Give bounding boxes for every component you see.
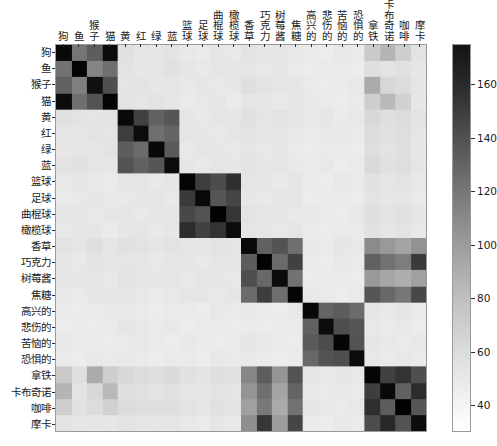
y-tick-label-1: 鱼 <box>41 60 51 77</box>
y-tick-label-7: 蓝 <box>41 157 51 174</box>
y-tick-mark-23 <box>52 424 55 425</box>
y-tick-label-20: 拿铁 <box>31 367 51 384</box>
y-tick-mark-10 <box>52 214 55 215</box>
y-tick-label-21: 卡布奇诺 <box>11 384 51 401</box>
y-tick-label-11: 橄榄球 <box>21 222 51 239</box>
y-tick-mark-7 <box>52 165 55 166</box>
y-tick-mark-1 <box>52 68 55 69</box>
x-tick-label-9: 足球 <box>195 20 212 42</box>
y-tick-label-18: 苦恼的 <box>21 335 51 352</box>
y-tick-label-5: 红 <box>41 125 51 142</box>
x-tick-mark-6 <box>156 44 157 47</box>
y-tick-mark-5 <box>52 133 55 134</box>
y-tick-label-14: 树莓酱 <box>21 270 51 287</box>
x-tick-mark-20 <box>373 44 374 47</box>
colorbar-tick-label-2: 80 <box>477 292 490 304</box>
x-tick-label-7: 蓝 <box>164 31 181 42</box>
y-tick-mark-15 <box>52 295 55 296</box>
y-tick-mark-2 <box>52 84 55 85</box>
y-tick-label-19: 恐惧的 <box>21 351 51 368</box>
x-axis-tick-labels: 狗鱼猴子猫黄红绿蓝篮球足球曲棍球橄榄球香草巧克力树莓酱焦糖高兴的悲伤的苦恼的恐惧… <box>55 0 427 44</box>
x-tick-mark-8 <box>187 44 188 47</box>
y-tick-mark-3 <box>52 101 55 102</box>
x-tick-label-4: 黄 <box>117 31 134 42</box>
x-tick-mark-0 <box>63 44 64 47</box>
x-tick-label-18: 苦恼的 <box>334 10 351 42</box>
x-tick-mark-18 <box>342 44 343 47</box>
colorbar-tick-6 <box>471 84 475 85</box>
y-tick-label-2: 猴子 <box>31 76 51 93</box>
x-tick-mark-2 <box>94 44 95 47</box>
y-tick-mark-13 <box>52 262 55 263</box>
x-tick-mark-13 <box>264 44 265 47</box>
colorbar-tick-label-5: 140 <box>477 132 497 144</box>
x-tick-label-11: 橄榄球 <box>226 10 243 42</box>
colorbar-tick-2 <box>471 298 475 299</box>
x-tick-label-8: 篮球 <box>179 20 196 42</box>
x-tick-mark-12 <box>249 44 250 47</box>
x-tick-label-13: 巧克力 <box>257 10 274 42</box>
y-tick-mark-8 <box>52 181 55 182</box>
y-tick-label-23: 摩卡 <box>31 416 51 433</box>
y-tick-label-9: 足球 <box>31 190 51 207</box>
colorbar-tick-1 <box>471 352 475 353</box>
colorbar-tick-3 <box>471 245 475 246</box>
x-tick-label-17: 悲伤的 <box>319 10 336 42</box>
y-tick-mark-0 <box>52 52 55 53</box>
x-tick-label-22: 咖啡 <box>396 20 413 42</box>
x-tick-mark-23 <box>419 44 420 47</box>
x-tick-mark-17 <box>326 44 327 47</box>
y-tick-label-6: 绿 <box>41 141 51 158</box>
x-tick-label-0: 狗 <box>55 31 72 42</box>
colorbar-tick-label-6: 160 <box>477 78 497 90</box>
x-tick-label-15: 焦糖 <box>288 20 305 42</box>
y-tick-label-13: 巧克力 <box>21 254 51 271</box>
colorbar-tick-label-4: 120 <box>477 185 497 197</box>
y-tick-mark-4 <box>52 117 55 118</box>
y-tick-mark-6 <box>52 149 55 150</box>
y-axis-tick-labels: 狗鱼猴子猫黄红绿蓝篮球足球曲棍球橄榄球香草巧克力树莓酱焦糖高兴的悲伤的苦恼的恐惧… <box>0 44 51 432</box>
x-tick-label-5: 红 <box>133 31 150 42</box>
y-tick-label-4: 黄 <box>41 109 51 126</box>
y-tick-label-17: 悲伤的 <box>21 319 51 336</box>
x-tick-mark-22 <box>404 44 405 47</box>
x-tick-label-3: 猫 <box>102 31 119 42</box>
y-tick-mark-17 <box>52 327 55 328</box>
x-tick-label-12: 香草 <box>241 20 258 42</box>
x-tick-mark-7 <box>171 44 172 47</box>
y-tick-label-16: 高兴的 <box>21 303 51 320</box>
x-tick-label-19: 恐惧的 <box>350 10 367 42</box>
x-tick-mark-21 <box>388 44 389 47</box>
y-tick-mark-12 <box>52 246 55 247</box>
y-tick-mark-19 <box>52 359 55 360</box>
x-tick-mark-14 <box>280 44 281 47</box>
y-tick-label-12: 香草 <box>31 238 51 255</box>
x-tick-mark-15 <box>295 44 296 47</box>
y-tick-label-10: 曲棍球 <box>21 206 51 223</box>
x-tick-mark-16 <box>311 44 312 47</box>
colorbar-tick-label-0: 40 <box>477 399 490 411</box>
x-tick-mark-4 <box>125 44 126 47</box>
x-tick-mark-19 <box>357 44 358 47</box>
x-tick-label-1: 鱼 <box>71 31 88 42</box>
colorbar-tick-label-1: 60 <box>477 346 490 358</box>
y-tick-label-22: 咖啡 <box>31 400 51 417</box>
heatmap-canvas <box>56 45 426 431</box>
x-tick-mark-3 <box>109 44 110 47</box>
x-tick-label-20: 拿铁 <box>365 20 382 42</box>
x-tick-label-23: 摩卡 <box>412 20 429 42</box>
y-tick-mark-11 <box>52 230 55 231</box>
colorbar-tick-0 <box>471 405 475 406</box>
x-tick-mark-11 <box>233 44 234 47</box>
x-tick-label-10: 曲棍球 <box>210 10 227 42</box>
x-tick-label-14: 树莓酱 <box>272 10 289 42</box>
y-tick-mark-18 <box>52 343 55 344</box>
y-tick-label-8: 篮球 <box>31 173 51 190</box>
x-tick-mark-5 <box>140 44 141 47</box>
x-tick-label-16: 高兴的 <box>303 10 320 42</box>
y-tick-mark-14 <box>52 278 55 279</box>
x-tick-mark-10 <box>218 44 219 47</box>
colorbar: 406080100120140160 <box>452 44 471 432</box>
x-tick-mark-9 <box>202 44 203 47</box>
colorbar-tick-5 <box>471 138 475 139</box>
